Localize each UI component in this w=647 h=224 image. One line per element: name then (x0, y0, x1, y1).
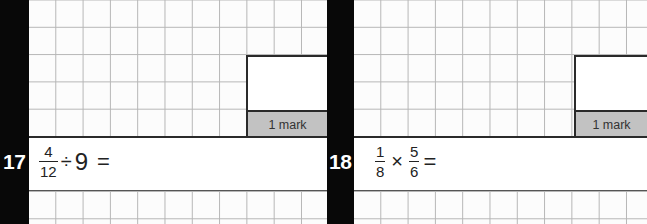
mark-label: 1 mark (576, 110, 647, 137)
numerator: 5 (409, 143, 419, 161)
answer-box[interactable]: 1 mark (246, 55, 327, 137)
operand: 9 (75, 148, 88, 176)
divide-sign: ÷ (61, 150, 72, 173)
question-number-18: 18 (329, 150, 351, 174)
question-expression: 1 8 × 5 6 = (375, 143, 440, 180)
question-18-panel: 1 mark 1 8 × 5 6 = (354, 0, 647, 224)
question-band: 1 8 × 5 6 = (354, 136, 647, 191)
middle-margin-strip (327, 0, 354, 224)
equals-sign: = (423, 149, 436, 175)
numerator: 1 (375, 143, 385, 161)
mark-label: 1 mark (248, 110, 327, 137)
answer-box[interactable]: 1 mark (574, 55, 647, 137)
fraction-1: 1 8 (375, 143, 385, 180)
question-band: 4 12 ÷ 9 = (29, 136, 327, 191)
numerator: 4 (43, 143, 53, 161)
denominator: 12 (39, 161, 58, 180)
question-expression: 4 12 ÷ 9 = (39, 143, 114, 180)
left-margin-strip (0, 0, 29, 224)
fraction: 4 12 (39, 143, 58, 180)
working-grid-bottom (29, 191, 327, 224)
denominator: 6 (409, 161, 419, 180)
question-number-17: 17 (3, 150, 25, 174)
denominator: 8 (375, 161, 385, 180)
question-17-panel: 1 mark 4 12 ÷ 9 = (29, 0, 327, 224)
fraction-2: 5 6 (409, 143, 419, 180)
equals-sign: = (97, 149, 110, 175)
working-grid-bottom (354, 191, 647, 224)
multiply-sign: × (391, 150, 403, 173)
